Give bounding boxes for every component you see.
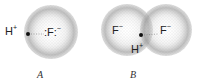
fluoride-ion-label-b-right: F− <box>160 25 171 36</box>
panel-label-b: B <box>130 70 136 80</box>
hydrogen-nucleus-dot-b <box>139 33 143 37</box>
hydrogen-bond-diagram: H+ :F:− A F− F− H+ B <box>0 0 201 84</box>
hydrogen-nucleus-dot-a <box>26 32 30 36</box>
sphere-drawing <box>0 0 201 84</box>
fluoride-ion-label-b-left: F− <box>112 25 123 36</box>
hydrogen-ion-label-a: H+ <box>5 26 17 37</box>
panel-label-a: A <box>37 70 43 80</box>
fluoride-ion-label-a: :F:− <box>44 27 61 38</box>
hydrogen-ion-label-b: H+ <box>131 44 143 55</box>
